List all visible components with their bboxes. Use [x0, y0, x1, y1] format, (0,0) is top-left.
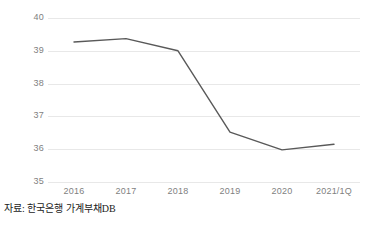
- y-axis-tick-label: 37: [10, 111, 44, 120]
- line-series-svg: [48, 18, 360, 182]
- y-axis-tick-label: 40: [10, 13, 44, 22]
- y-axis-tick-label: 35: [10, 177, 44, 186]
- gridline: [48, 182, 360, 183]
- y-axis: 403938373635: [6, 18, 44, 182]
- x-axis-tick-label: 2016: [64, 186, 85, 196]
- x-axis-tick-label: 2017: [116, 186, 137, 196]
- x-axis-tick-label: 2020: [272, 186, 293, 196]
- x-axis: 201620172018201920202021/1Q: [48, 186, 360, 200]
- x-axis-tick-label: 2021/1Q: [316, 186, 352, 196]
- chart-plot-area: 403938373635 201620172018201920202021/1Q: [0, 0, 373, 196]
- y-axis-tick-label: 39: [10, 46, 44, 55]
- chart-figure: 403938373635 201620172018201920202021/1Q…: [0, 0, 373, 225]
- line-series-path: [74, 39, 334, 150]
- y-axis-tick-label: 38: [10, 79, 44, 88]
- x-axis-tick-label: 2018: [168, 186, 189, 196]
- y-axis-tick-label: 36: [10, 144, 44, 153]
- x-axis-tick-label: 2019: [220, 186, 241, 196]
- source-note: 자료: 한국은행 가계부채DB: [4, 203, 116, 215]
